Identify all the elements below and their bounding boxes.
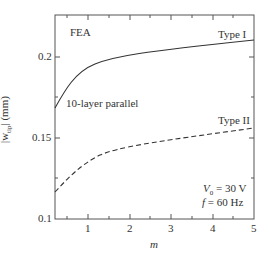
y-tick-0.15: 0.15: [32, 131, 51, 143]
y-axis-label: |wtip| (mm): [0, 96, 13, 143]
config-label: 10-layer parallel: [66, 97, 138, 109]
x-tick-3: 3: [168, 222, 174, 234]
x-tick-1: 1: [85, 222, 91, 234]
voltage-annotation: V0 = 30 V: [203, 182, 246, 197]
y-tick-0.1: 0.1: [38, 212, 52, 224]
frequency-annotation: f = 60 Hz: [202, 196, 243, 208]
type-i-label: Type I: [218, 28, 246, 40]
x-tick-5: 5: [251, 222, 257, 234]
x-tick-2: 2: [127, 222, 133, 234]
fea-label: FEA: [70, 26, 91, 38]
x-tick-4: 4: [210, 222, 216, 234]
x-axis-label: m: [150, 238, 158, 250]
type-ii-label: Type II: [218, 114, 250, 126]
y-tick-0.2: 0.2: [38, 50, 52, 62]
